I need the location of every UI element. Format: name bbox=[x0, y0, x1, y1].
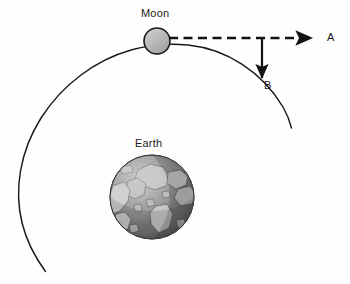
orbit-diagram: Moon Earth A B bbox=[0, 0, 350, 284]
moon-sphere bbox=[144, 28, 170, 54]
moon-label: Moon bbox=[141, 8, 169, 19]
earth-label: Earth bbox=[135, 138, 162, 149]
diagram-canvas bbox=[0, 0, 350, 284]
moon-body bbox=[144, 28, 170, 54]
vector-b-label: B bbox=[264, 80, 272, 91]
vector-a-label: A bbox=[327, 32, 335, 43]
earth-globe bbox=[107, 155, 210, 239]
